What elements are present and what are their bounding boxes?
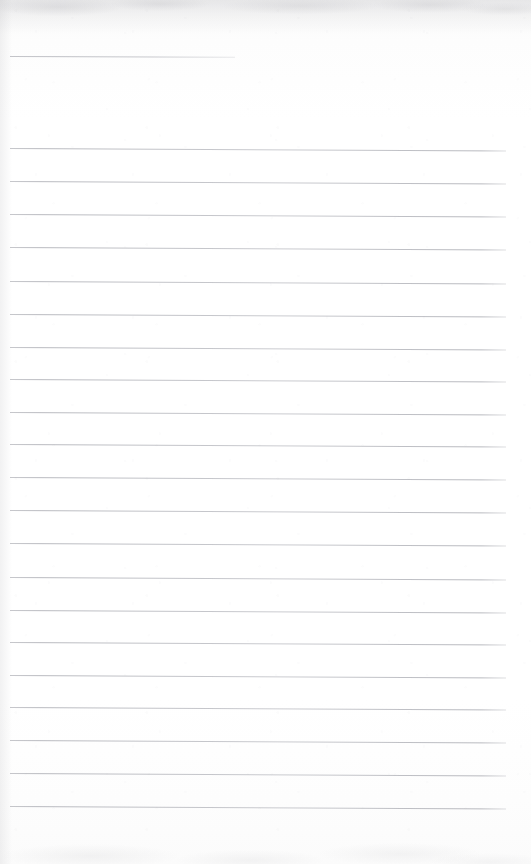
scanned-page	[0, 0, 531, 864]
paper-background	[0, 0, 531, 864]
